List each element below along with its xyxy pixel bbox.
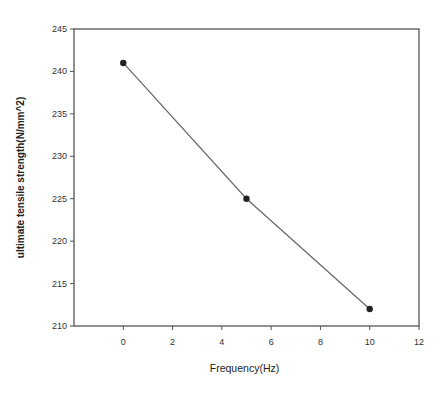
line-chart: 210215220225230235240245 024681012 Frequ…: [0, 0, 440, 393]
x-tick-label: 2: [170, 337, 175, 347]
x-axis-title: Frequency(Hz): [210, 362, 279, 374]
x-axis: 024681012: [121, 326, 424, 347]
y-tick-label: 225: [52, 194, 67, 204]
y-tick-label: 245: [52, 24, 67, 34]
y-tick-label: 240: [52, 66, 67, 76]
y-axis-title: ultimate tensile strength(N/mm^2): [15, 97, 26, 258]
x-tick-label: 0: [121, 337, 126, 347]
x-tick-label: 10: [365, 337, 375, 347]
x-tick-label: 8: [318, 337, 323, 347]
data-point: [120, 60, 126, 66]
y-tick-label: 230: [52, 151, 67, 161]
y-tick-label: 215: [52, 279, 67, 289]
y-tick-label: 210: [52, 321, 67, 331]
y-tick-label: 235: [52, 109, 67, 119]
data-line: [123, 63, 369, 309]
x-tick-label: 12: [414, 337, 424, 347]
y-tick-label: 220: [52, 236, 67, 246]
x-tick-label: 4: [219, 337, 224, 347]
plot-frame: [74, 29, 419, 326]
y-axis: 210215220225230235240245: [52, 24, 74, 331]
data-point: [243, 196, 249, 202]
x-tick-label: 6: [269, 337, 274, 347]
data-markers: [120, 60, 373, 312]
data-point: [367, 306, 373, 312]
